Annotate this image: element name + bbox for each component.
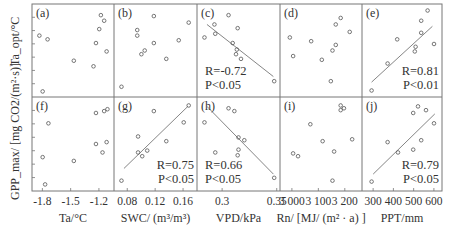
data-point — [288, 36, 292, 40]
panel-label: (b) — [118, 6, 132, 20]
data-point — [92, 65, 96, 69]
x-tick-label: 0.3 — [215, 195, 230, 207]
x-tick-label: 300 — [365, 195, 383, 207]
data-point — [329, 79, 333, 83]
data-point — [135, 34, 139, 38]
data-point — [120, 179, 124, 183]
scatter-grid: (a)(b)(c)R=-0.72P<0.05(d)(e)R=0.81P<0.01… — [0, 0, 455, 228]
p-value: P<0.05 — [403, 172, 439, 186]
data-point — [140, 154, 144, 158]
panel-b: (b) — [118, 6, 191, 89]
data-point — [339, 16, 343, 20]
r-value: R=-0.72 — [205, 64, 246, 78]
x-tick-label: 500 — [405, 195, 423, 207]
x-tick-label: 3 200 — [332, 195, 358, 207]
data-point — [296, 154, 300, 158]
data-point — [331, 49, 335, 53]
data-point — [321, 139, 325, 143]
data-point — [237, 148, 241, 152]
data-point — [135, 28, 139, 32]
data-point — [334, 43, 338, 47]
r-value: R=0.79 — [402, 158, 439, 172]
panel-label: (e) — [366, 6, 379, 20]
data-point — [213, 151, 217, 155]
data-point — [309, 39, 313, 43]
data-point — [187, 21, 191, 25]
panel-i: (i) — [284, 99, 354, 182]
data-point — [331, 179, 335, 183]
data-point — [227, 13, 231, 17]
p-value: P<0.01 — [403, 78, 439, 92]
data-point — [47, 122, 51, 126]
data-point — [43, 183, 47, 187]
x-axis-label: SWC/ (m³/m³) — [121, 211, 191, 225]
data-point — [239, 57, 243, 61]
data-point — [243, 138, 247, 142]
data-point — [370, 89, 374, 93]
data-point — [94, 142, 98, 146]
data-point — [102, 19, 106, 23]
data-point — [46, 38, 50, 42]
data-point — [72, 59, 76, 63]
panel-label: (c) — [201, 6, 214, 20]
data-point — [332, 150, 336, 154]
data-point — [213, 32, 217, 36]
data-point — [386, 62, 390, 66]
panel-label: (h) — [201, 99, 215, 113]
data-point — [38, 34, 42, 38]
r-value: R=0.66 — [205, 158, 242, 172]
data-point — [339, 104, 343, 108]
panel-label: (d) — [284, 6, 298, 20]
data-point — [413, 50, 417, 54]
data-point — [395, 38, 399, 42]
data-point — [140, 52, 144, 56]
data-point — [419, 138, 423, 142]
data-point — [424, 108, 428, 112]
data-point — [41, 90, 45, 94]
data-point — [309, 122, 313, 126]
data-point — [419, 31, 423, 35]
data-point — [97, 27, 101, 31]
panel-e: (e)R=0.81P<0.01 — [366, 6, 439, 92]
panel-a: (a) — [36, 6, 108, 93]
data-point — [136, 151, 140, 155]
data-point — [350, 138, 354, 142]
data-point — [164, 57, 168, 61]
x-tick-label: 600 — [425, 195, 443, 207]
panel-h: (h)R=0.66P<0.05 — [201, 99, 276, 186]
data-point — [213, 23, 217, 27]
data-point — [94, 111, 98, 115]
panel-label: (j) — [366, 99, 377, 113]
x-tick-label: 3 000 — [279, 195, 305, 207]
panel-f: (f) — [36, 99, 109, 186]
panel-label: (f) — [36, 99, 48, 113]
data-point — [145, 149, 149, 153]
data-point — [272, 176, 276, 180]
panel-g: (g)R=0.75P<0.05 — [118, 99, 194, 186]
data-point — [234, 52, 238, 56]
panel-label: (g) — [118, 99, 132, 113]
x-axis-label: VPD/kPa — [216, 211, 262, 225]
x-tick-label: 0.16 — [173, 195, 193, 207]
panel-j: (j)R=0.79P<0.05 — [366, 99, 439, 186]
data-point — [227, 106, 231, 110]
x-tick-label: 0.08 — [117, 195, 137, 207]
data-point — [177, 38, 181, 42]
data-point — [164, 139, 168, 143]
data-point — [272, 79, 276, 83]
data-point — [370, 180, 374, 184]
data-point — [105, 50, 109, 54]
data-point — [426, 9, 430, 13]
data-point — [41, 155, 45, 159]
y-axis-label-gppmax: GPP_max/ [mg CO2/(m²·s)] — [8, 63, 22, 200]
x-axis-label: Rn/ [MJ/ (m² · a) ] — [276, 211, 365, 225]
data-point — [386, 140, 390, 144]
x-tick-label: -1.2 — [90, 195, 108, 207]
x-tick-label: 3 100 — [305, 195, 331, 207]
data-point — [101, 151, 105, 155]
data-point — [291, 152, 295, 156]
r-value: R=0.75 — [157, 158, 194, 172]
r-value: R=0.81 — [402, 64, 439, 78]
data-point — [152, 41, 156, 45]
x-tick-label: 0.12 — [145, 195, 165, 207]
